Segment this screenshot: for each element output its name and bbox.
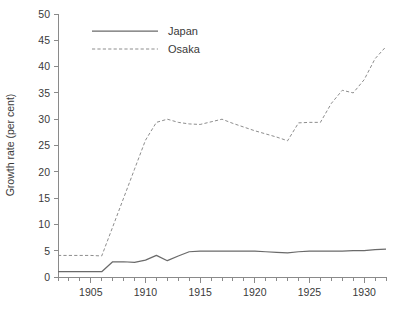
x-tick-label: 1920 xyxy=(243,286,267,298)
series-line-japan xyxy=(58,249,386,272)
x-tick-label: 1905 xyxy=(79,286,103,298)
y-tick-label: 15 xyxy=(38,192,50,204)
series-layer xyxy=(58,47,386,272)
legend-label-japan: Japan xyxy=(168,25,198,37)
y-tick-label: 30 xyxy=(38,113,50,125)
y-tick-label: 0 xyxy=(44,271,50,283)
x-tick-label: 1930 xyxy=(352,286,376,298)
line-chart: 05101520253035404550 1905191019151920192… xyxy=(0,0,404,315)
y-axis-title: Growth rate (per cent) xyxy=(4,94,16,197)
y-tick-label: 20 xyxy=(38,166,50,178)
x-tick-label: 1910 xyxy=(134,286,158,298)
y-tick-label: 5 xyxy=(44,245,50,257)
y-axis: 05101520253035404550 xyxy=(38,8,58,283)
x-axis: 190519101915192019251930 xyxy=(58,277,386,298)
x-tick-label: 1925 xyxy=(298,286,322,298)
legend-label-osaka: Osaka xyxy=(168,43,201,55)
chart-container: 05101520253035404550 1905191019151920192… xyxy=(0,0,404,315)
x-tick-label: 1915 xyxy=(188,286,212,298)
y-tick-label: 35 xyxy=(38,87,50,99)
y-tick-label: 50 xyxy=(38,8,50,20)
y-tick-label: 45 xyxy=(38,34,50,46)
series-line-osaka xyxy=(58,47,386,256)
y-tick-label: 25 xyxy=(38,139,50,151)
y-tick-label: 40 xyxy=(38,60,50,72)
chart-legend: JapanOsaka xyxy=(92,25,201,55)
y-tick-label: 10 xyxy=(38,218,50,230)
